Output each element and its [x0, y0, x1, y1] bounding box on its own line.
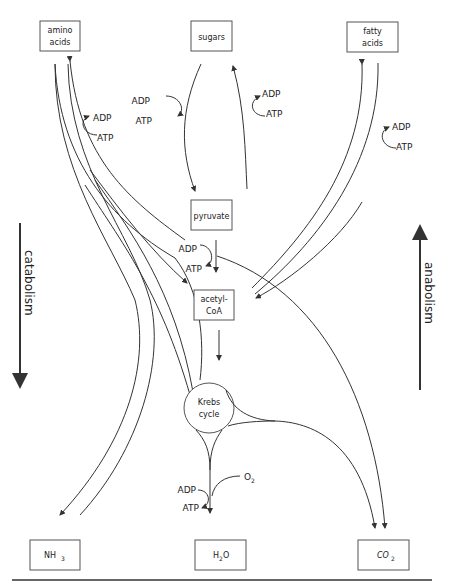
krebs-cusp-right — [228, 421, 275, 426]
svg-text:acids: acids — [362, 39, 383, 48]
svg-text:pyruvate: pyruvate — [194, 212, 230, 221]
krebs-energy-curl — [198, 490, 208, 508]
svg-text:cycle: cycle — [199, 410, 220, 419]
adp-label: ADP — [392, 122, 411, 132]
adp-label: ADP — [178, 244, 197, 254]
krebs-cusp-left — [196, 430, 210, 470]
amino-to-krebs-track-2 — [95, 180, 193, 392]
svg-text:Krebs: Krebs — [198, 398, 221, 407]
fatty-acids-box: fatty acids — [347, 22, 398, 52]
krebs-to-co2-arrow — [226, 390, 375, 528]
amino-to-acetyl-arrow — [90, 170, 187, 283]
o2-in-curve — [212, 476, 240, 496]
co2-box: CO 2 — [358, 540, 409, 570]
adp-label: ADP — [262, 89, 281, 99]
pyruvate-to-sugars-arrow — [233, 66, 247, 189]
nh3-box: NH 3 — [30, 540, 80, 570]
metabolism-diagram: amino acids sugars fatty acids ADP ATP A… — [0, 0, 449, 588]
sugars-to-pyruvate-arrow — [184, 64, 201, 191]
atp-label: ATP — [396, 142, 413, 152]
catabolism-label: catabolism — [22, 250, 36, 316]
amino-anabolic-track — [70, 61, 185, 240]
o2-subscript: 2 — [251, 477, 255, 484]
pyruvate-box: pyruvate — [191, 200, 232, 230]
amino-acids-box: amino acids — [40, 21, 80, 51]
svg-text:fatty: fatty — [363, 27, 382, 36]
pyruvate-to-co2-arrow — [217, 256, 385, 528]
h2o-box: H 2 O — [195, 540, 246, 570]
sugars-right-energy-curl — [252, 96, 265, 116]
anabolism-label: anabolism — [422, 262, 436, 324]
svg-text:acetyl-: acetyl- — [200, 295, 227, 304]
svg-text:2: 2 — [391, 555, 395, 562]
sugars-left-energy-curl — [166, 96, 182, 116]
svg-text:CO: CO — [377, 551, 389, 560]
svg-text:acids: acids — [50, 38, 71, 47]
svg-text:NH: NH — [44, 551, 56, 560]
adp-label: ADP — [177, 485, 196, 495]
amino-catabolic-track — [55, 64, 202, 380]
svg-text:amino: amino — [48, 26, 73, 35]
adp-label: ADP — [131, 96, 150, 106]
amino-to-nh3-track — [68, 64, 154, 515]
acetyl-coa-box: acetyl- CoA — [194, 290, 234, 320]
svg-text:O: O — [223, 551, 229, 560]
svg-text:CoA: CoA — [206, 307, 222, 316]
atp-label: ATP — [186, 264, 203, 274]
adp-label: ADP — [93, 113, 112, 123]
atp-label: ATP — [183, 503, 200, 513]
atp-label: ATP — [97, 133, 114, 143]
sugars-box: sugars — [191, 21, 232, 51]
atp-label: ATP — [266, 109, 283, 119]
atp-label: ATP — [136, 116, 153, 126]
krebs-cusp-right-bottom — [210, 430, 222, 470]
svg-text:sugars: sugars — [198, 33, 225, 42]
svg-text:3: 3 — [61, 555, 65, 562]
amino-to-krebs-track — [85, 185, 190, 395]
pyruvate-energy-curl — [200, 245, 212, 266]
